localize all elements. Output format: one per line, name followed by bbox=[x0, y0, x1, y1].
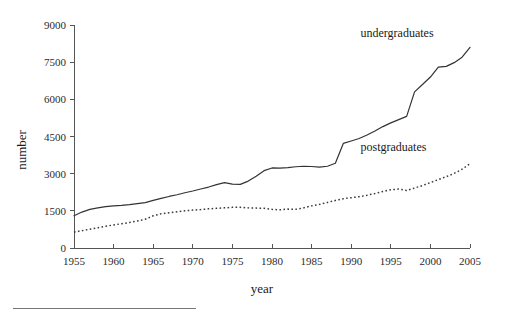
x-tick-label: 1985 bbox=[301, 255, 324, 267]
y-axis-tick-labels: 0150030004500600075009000 bbox=[44, 19, 67, 254]
x-tick-label: 1980 bbox=[261, 255, 284, 267]
y-tick-label: 6000 bbox=[44, 93, 67, 105]
y-tick-label: 0 bbox=[61, 242, 67, 254]
axis-tick-marks bbox=[70, 25, 470, 248]
series-label-postgraduates: postgraduates bbox=[360, 140, 426, 154]
series-label-undergraduates: undergraduates bbox=[360, 26, 433, 40]
x-axis-tick-labels: 1955196019651970197519801985199019952000… bbox=[63, 255, 482, 267]
x-tick-label: 1955 bbox=[63, 255, 86, 267]
line-chart: 0150030004500600075009000 19551960196519… bbox=[0, 0, 512, 320]
x-tick-label: 1970 bbox=[182, 255, 205, 267]
x-tick-label: 2000 bbox=[419, 255, 442, 267]
y-tick-label: 9000 bbox=[44, 19, 67, 31]
x-tick-label: 1975 bbox=[221, 255, 244, 267]
x-axis-title: year bbox=[251, 281, 274, 296]
x-tick-label: 2005 bbox=[459, 255, 482, 267]
series-line-postgraduates bbox=[74, 164, 470, 232]
x-tick-label: 1995 bbox=[380, 255, 403, 267]
x-tick-label: 1965 bbox=[142, 255, 165, 267]
series-line-undergraduates bbox=[74, 47, 470, 215]
y-tick-label: 7500 bbox=[44, 56, 67, 68]
y-tick-label: 3000 bbox=[44, 168, 67, 180]
y-axis-title: number bbox=[14, 129, 29, 169]
x-tick-label: 1960 bbox=[103, 255, 126, 267]
y-tick-label: 4500 bbox=[44, 131, 67, 143]
chart-figure: 0150030004500600075009000 19551960196519… bbox=[0, 0, 512, 320]
y-tick-label: 1500 bbox=[44, 205, 67, 217]
x-tick-label: 1990 bbox=[340, 255, 363, 267]
